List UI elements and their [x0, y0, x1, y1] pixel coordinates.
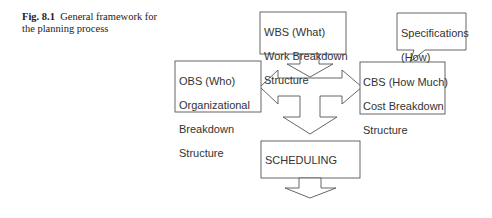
scheduling-label: SCHEDULING	[265, 154, 337, 166]
specifications-label: Specifications (How)	[401, 15, 469, 75]
cbs-label: CBS (How Much) Cost Breakdown Structure	[363, 64, 448, 148]
wbs-label: WBS (What) Work Breakdown Structure	[264, 14, 348, 98]
obs-label: OBS (Who) Organizational Breakdown Struc…	[179, 63, 250, 171]
scheduling-down-arrow-icon	[285, 178, 336, 198]
